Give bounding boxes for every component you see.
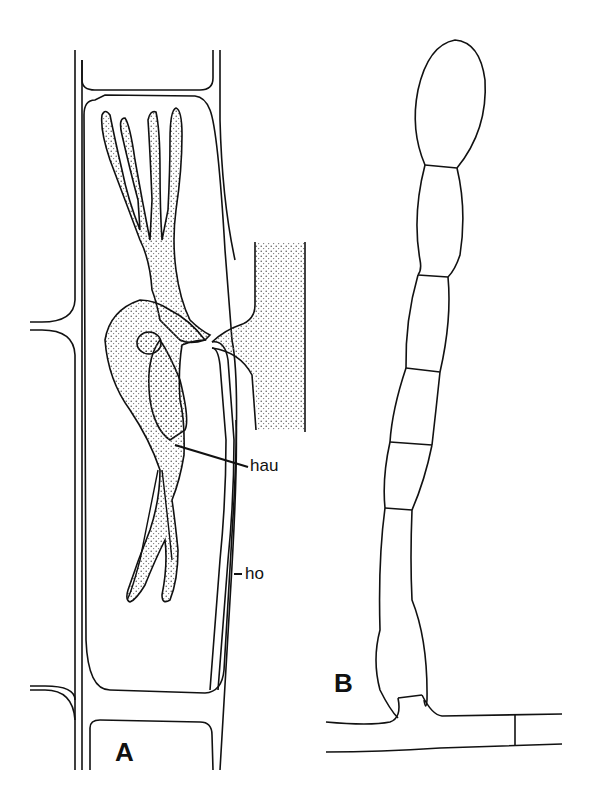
panel-b-chain (326, 40, 562, 752)
haustorium (102, 108, 210, 602)
host-hypha-ho (210, 342, 234, 690)
nucleus (137, 332, 161, 354)
panel-label-a: A (115, 737, 134, 768)
panel-label-b: B (334, 668, 353, 699)
figure-drawing (0, 0, 590, 800)
label-ho: ho (245, 564, 264, 584)
label-hau: hau (250, 456, 278, 476)
